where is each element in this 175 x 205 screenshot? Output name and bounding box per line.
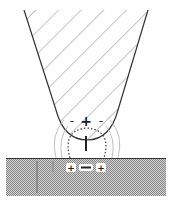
probe-tip — [0, 0, 175, 160]
surface-charge-plus: + — [97, 163, 105, 173]
surface-charge-plus: + — [67, 163, 75, 173]
charge-minus: - — [70, 114, 74, 128]
charge-plus: + — [80, 113, 92, 129]
charge-minus: - — [99, 114, 103, 128]
surface-charge-minus — [81, 167, 91, 169]
sample-substrate — [6, 158, 166, 196]
tip-sample-diagram: - + - + + — [0, 0, 175, 205]
